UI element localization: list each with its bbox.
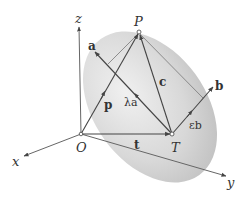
point-O xyxy=(79,132,83,136)
vector-lambda-a-label: λa xyxy=(124,96,138,109)
x-axis-label: x xyxy=(12,154,20,169)
vector-p-label: p xyxy=(104,98,112,112)
vector-c-label: c xyxy=(159,75,166,89)
point-O-label: O xyxy=(76,140,87,155)
y-axis-label: y xyxy=(226,175,235,190)
x-axis xyxy=(24,134,81,156)
vector-epsilon-b-label: εb xyxy=(189,119,202,132)
point-P xyxy=(137,30,141,34)
z-axis xyxy=(79,27,81,134)
vector-t-label: t xyxy=(134,138,140,152)
vector-b-label: b xyxy=(215,79,223,93)
z-axis-label: z xyxy=(74,11,82,26)
point-P-label: P xyxy=(133,14,143,29)
vector-plane-diagram: z x y P O T a b c p t λa εb xyxy=(0,0,245,202)
point-T-label: T xyxy=(171,140,181,155)
diagram-svg: z x y P O T a b c p t λa εb xyxy=(0,0,245,202)
vector-a-label: a xyxy=(88,39,96,53)
plane-ellipse xyxy=(55,6,244,202)
point-T xyxy=(170,132,174,136)
